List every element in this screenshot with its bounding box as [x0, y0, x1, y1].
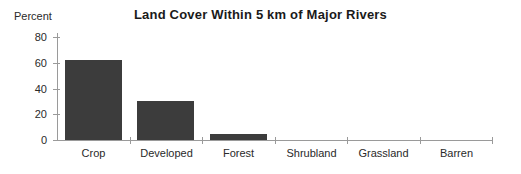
y-tick-label: 40	[17, 83, 47, 95]
chart-title: Land Cover Within 5 km of Major Rivers	[0, 7, 521, 22]
y-tick	[53, 89, 60, 90]
y-tick	[53, 114, 60, 115]
y-tick-label: 0	[17, 134, 47, 146]
bar-chart: Land Cover Within 5 km of Major Rivers P…	[0, 0, 521, 174]
x-axis-category-label: Crop	[57, 147, 130, 159]
y-tick-label: 60	[17, 57, 47, 69]
x-axis-category-label: Grassland	[347, 147, 420, 159]
y-axis-line	[57, 33, 58, 140]
y-tick-label: 20	[17, 108, 47, 120]
x-tick	[275, 137, 276, 144]
y-axis-title: Percent	[14, 10, 52, 22]
x-axis-category-label: Shrubland	[275, 147, 348, 159]
x-tick	[130, 137, 131, 144]
bar-forest	[210, 134, 267, 140]
x-axis-category-label: Developed	[130, 147, 203, 159]
x-tick	[420, 137, 421, 144]
y-tick	[53, 37, 60, 38]
x-tick	[347, 137, 348, 144]
x-tick	[202, 137, 203, 144]
x-tick	[492, 137, 493, 144]
x-axis-category-label: Forest	[202, 147, 275, 159]
bar-crop	[65, 60, 122, 140]
x-axis-category-label: Barren	[420, 147, 493, 159]
y-tick	[53, 140, 60, 141]
bar-developed	[137, 101, 194, 140]
y-tick-label: 80	[17, 31, 47, 43]
y-tick	[53, 63, 60, 64]
